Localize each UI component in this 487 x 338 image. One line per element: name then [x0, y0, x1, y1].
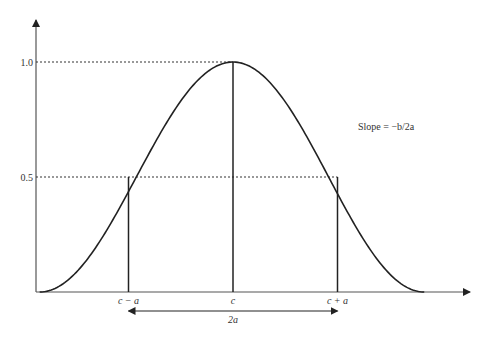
- x-tick-label-c-plus-a: c + a: [327, 295, 348, 306]
- bell-curve-diagram: 1.0 0.5 c − a c c + a 2a Slope = −b/2a: [0, 0, 487, 338]
- slope-annotation: Slope = −b/2a: [358, 121, 415, 132]
- x-tick-label-c-minus-a: c − a: [118, 295, 139, 306]
- y-tick-label-0.5: 0.5: [21, 172, 34, 183]
- x-tick-label-c: c: [231, 295, 236, 306]
- width-label: 2a: [228, 314, 238, 325]
- y-tick-label-1.0: 1.0: [21, 57, 34, 68]
